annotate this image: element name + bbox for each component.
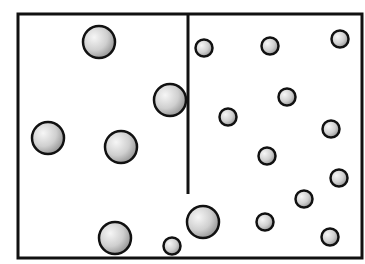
large-particle	[83, 26, 115, 58]
large-particle	[187, 206, 219, 238]
large-particle	[99, 222, 131, 254]
small-particle	[322, 229, 339, 246]
small-particle	[323, 121, 340, 138]
large-particle	[154, 84, 186, 116]
small-particle	[257, 214, 274, 231]
small-particle	[196, 40, 213, 57]
large-particle	[105, 131, 137, 163]
partitioned-container-diagram	[0, 0, 365, 264]
small-particle	[296, 191, 313, 208]
small-particle	[164, 238, 181, 255]
large-particle	[32, 122, 64, 154]
small-particle	[279, 89, 296, 106]
small-particle	[220, 109, 237, 126]
small-particle	[332, 31, 349, 48]
large-particles	[32, 26, 219, 254]
small-particle	[331, 170, 348, 187]
small-particle	[262, 38, 279, 55]
small-particle	[259, 148, 276, 165]
